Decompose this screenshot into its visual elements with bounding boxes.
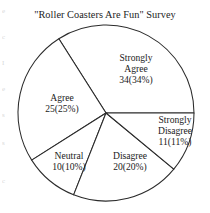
slice-label-strongly-disagree-line2: Disagree — [142, 125, 208, 136]
slice-value-neutral: 10(10%) — [34, 161, 104, 172]
slice-label-strongly-disagree-line1: Strongly — [142, 114, 208, 125]
slice-value-agree: 25(25%) — [28, 103, 96, 114]
slice-value-strongly-disagree: 11(11%) — [142, 136, 208, 147]
slice-value-disagree: 20(20%) — [96, 161, 164, 172]
slice-label-agree-line1: Agree — [28, 92, 96, 103]
slice-label-neutral: Neutral 10(10%) — [34, 150, 104, 172]
slice-label-strongly-agree-line2: Agree — [100, 63, 172, 74]
slice-label-neutral-line1: Neutral — [34, 150, 104, 161]
slice-label-disagree-line1: Disagree — [96, 150, 164, 161]
slice-value-strongly-agree: 34(34%) — [100, 74, 172, 85]
slice-label-strongly-agree: Strongly Agree 34(34%) — [100, 52, 172, 86]
slice-label-strongly-agree-line1: Strongly — [100, 52, 172, 63]
pie-chart-figure: "Roller Coasters Are Fun" Survey Strongl… — [0, 0, 210, 213]
slice-label-strongly-disagree: Strongly Disagree 11(11%) — [142, 114, 208, 148]
slice-label-disagree: Disagree 20(20%) — [96, 150, 164, 172]
slice-label-agree: Agree 25(25%) — [28, 92, 96, 114]
